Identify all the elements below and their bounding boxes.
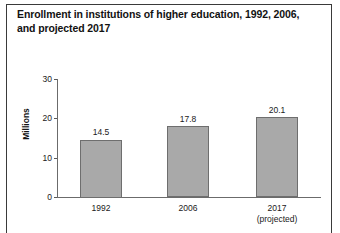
- y-axis-label: Millions: [21, 94, 31, 154]
- chart-figure: Enrollment in institutions of higher edu…: [0, 0, 340, 233]
- y-tick-label-0: 0: [30, 193, 52, 202]
- bar-2006: [167, 126, 209, 197]
- y-axis-line: [57, 79, 58, 198]
- plot-area: Millions 30 20 10 0 14.5 17.8 20.1 1992 …: [0, 0, 340, 233]
- y-tick-label-30: 30: [30, 75, 52, 84]
- x-tick-label-1992: 1992: [76, 203, 126, 214]
- bar-1992: [80, 140, 122, 198]
- bar-value-2006: 17.8: [167, 114, 209, 124]
- bar-value-1992: 14.5: [80, 127, 122, 137]
- y-tick-label-10: 10: [30, 154, 52, 163]
- x-tick-label-2017: 2017: [252, 203, 302, 214]
- y-tick-label-20: 20: [30, 114, 52, 123]
- bar-value-2017: 20.1: [256, 105, 298, 115]
- x-tick-sublabel-2017: (projected): [247, 214, 307, 225]
- bar-2017: [256, 117, 298, 197]
- x-tick-label-2006: 2006: [163, 203, 213, 214]
